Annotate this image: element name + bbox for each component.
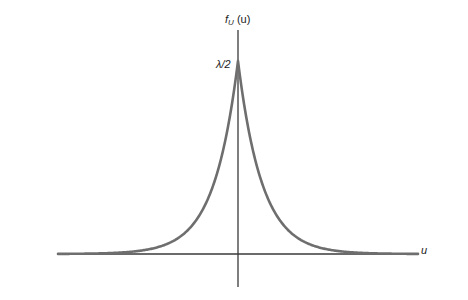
laplace-density-chart bbox=[0, 0, 468, 300]
y-axis-label: fU (u) bbox=[225, 14, 250, 27]
x-axis-label: u bbox=[421, 245, 427, 256]
peak-value-label: λ/2 bbox=[216, 59, 231, 70]
y-label-argument: (u) bbox=[234, 13, 251, 25]
